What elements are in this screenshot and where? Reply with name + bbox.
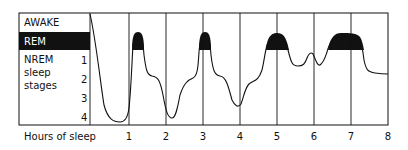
svg-text:6: 6 [311, 131, 317, 142]
svg-text:2: 2 [163, 131, 169, 142]
label-rem: REM [24, 36, 46, 47]
svg-text:4: 4 [237, 131, 243, 142]
sleep-stages-chart: AWAKE REM NREM sleep stages 1 2 3 4 Hour… [0, 0, 408, 150]
label-nrem: NREM [24, 54, 53, 65]
label-sleep: sleep [24, 67, 51, 78]
label-stage-3: 3 [81, 93, 87, 104]
label-stage-1: 1 [81, 55, 87, 66]
svg-text:8: 8 [385, 131, 391, 142]
svg-text:3: 3 [200, 131, 206, 142]
label-awake: AWAKE [24, 17, 59, 28]
svg-text:7: 7 [348, 131, 354, 142]
label-stage-4: 4 [81, 112, 87, 123]
sleep-curve [90, 14, 388, 122]
x-ticks: 1 2 3 4 5 6 7 8 [126, 131, 391, 142]
x-axis-title: Hours of sleep [24, 131, 96, 142]
label-stage-2: 2 [81, 74, 87, 85]
rem-periods [132, 32, 364, 50]
svg-text:1: 1 [126, 131, 132, 142]
label-stages: stages [24, 80, 57, 91]
svg-text:5: 5 [274, 131, 280, 142]
chart-frame [19, 13, 388, 125]
